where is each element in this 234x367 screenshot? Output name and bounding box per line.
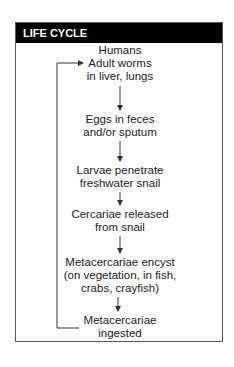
feedback-loop-arrow-icon (57, 63, 83, 328)
flow-arrows (0, 0, 234, 367)
